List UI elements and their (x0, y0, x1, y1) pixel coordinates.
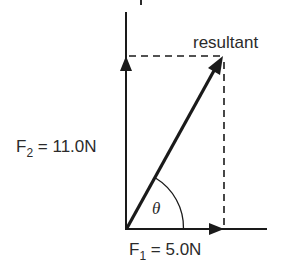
f2-label: F2 = 11.0N (16, 137, 97, 160)
f2-label-main: F (16, 137, 26, 156)
angle-theta-label: θ (152, 199, 160, 218)
f1-label-main: F (129, 240, 139, 259)
f1-label: F1 = 5.0N (129, 240, 201, 263)
f2-label-value: = 11.0N (33, 137, 96, 156)
f1-label-value: = 5.0N (146, 240, 201, 259)
vector-diagram: θ resultant F2 = 11.0N F1 = 5.0N (0, 0, 282, 277)
resultant-label: resultant (193, 33, 258, 52)
resultant-arrowhead-icon (208, 56, 223, 75)
f1-arrowhead-icon (209, 223, 224, 235)
f2-arrowhead-icon (120, 56, 132, 71)
resultant-vector-line (127, 67, 216, 228)
